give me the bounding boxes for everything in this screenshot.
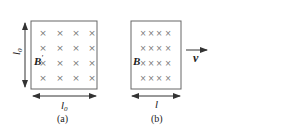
svg-text:×: × [156,74,163,83]
caption-b: (b) [151,113,163,125]
panel-b: ×××× ×××× ×××× ×××× B v l (b) [131,21,207,125]
svg-text:×: × [165,74,172,83]
svg-text:×: × [56,73,64,83]
svg-text:×: × [72,58,80,68]
svg-text:×: × [156,59,163,68]
svg-text:×: × [148,44,155,53]
svg-text:×: × [39,73,47,83]
svg-text:×: × [165,44,172,53]
svg-text:×: × [140,44,147,53]
figure-canvas: ×××× ×××× ×××× ×××× B′ l0 l0 (a) ×××× ××… [0,0,282,133]
svg-text:×: × [88,58,96,68]
svg-text:×: × [140,74,147,83]
svg-text:×: × [88,43,96,53]
svg-text:×: × [72,28,80,38]
svg-text:×: × [156,44,163,53]
panel-a: ×××× ×××× ×××× ×××× B′ l0 l0 (a) [10,21,97,125]
svg-text:×: × [148,29,155,38]
svg-text:×: × [88,28,96,38]
svg-text:×: × [156,29,163,38]
height-label: l0 [10,48,24,55]
svg-text:×: × [56,58,64,68]
svg-text:×: × [39,28,47,38]
caption-a: (a) [57,113,68,125]
velocity-label: v [193,51,199,65]
svg-text:×: × [39,43,47,53]
svg-text:×: × [72,43,80,53]
svg-text:×: × [140,29,147,38]
svg-text:×: × [148,74,155,83]
svg-text:×: × [140,59,147,68]
svg-text:×: × [165,59,172,68]
svg-text:×: × [165,29,172,38]
svg-text:×: × [148,59,155,68]
svg-text:×: × [56,28,64,38]
field-label-b: B [132,55,140,67]
svg-text:×: × [56,43,64,53]
svg-text:×: × [88,73,96,83]
svg-text:×: × [72,73,80,83]
magnetic-field-crosses: ×××× ×××× ×××× ×××× [39,28,96,83]
width-label: l0 [61,99,68,113]
width-label: l [155,98,158,110]
magnetic-field-crosses: ×××× ×××× ×××× ×××× [140,29,172,83]
